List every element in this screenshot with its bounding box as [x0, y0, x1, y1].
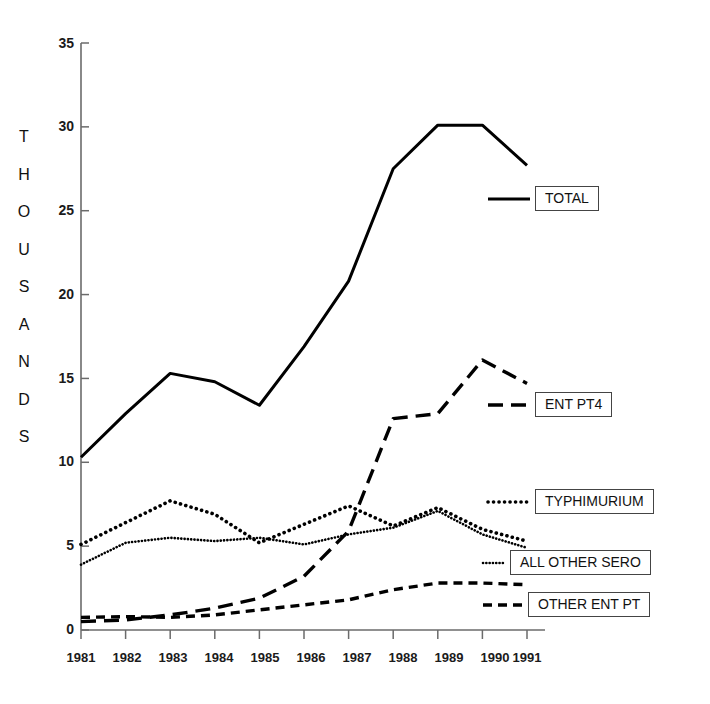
legend-item-other-ent-pt[interactable]: OTHER ENT PT — [528, 592, 650, 617]
series-layer — [81, 125, 527, 621]
legend-item-typhimurium[interactable]: TYPHIMURIUM — [535, 489, 654, 514]
chart-figure: T H O U S A N D S 35 30 25 20 15 10 5 0 … — [0, 0, 710, 704]
legend-item-total[interactable]: TOTAL — [535, 186, 599, 211]
legend-item-ent-pt4[interactable]: ENT PT4 — [535, 392, 612, 417]
x-axis-ticks — [81, 630, 527, 639]
series-line-total — [81, 125, 527, 457]
legend-line-samples — [483, 199, 530, 605]
series-line-other-ent-pt — [81, 583, 527, 617]
legend-item-all-other-sero[interactable]: ALL OTHER SERO — [510, 550, 651, 575]
